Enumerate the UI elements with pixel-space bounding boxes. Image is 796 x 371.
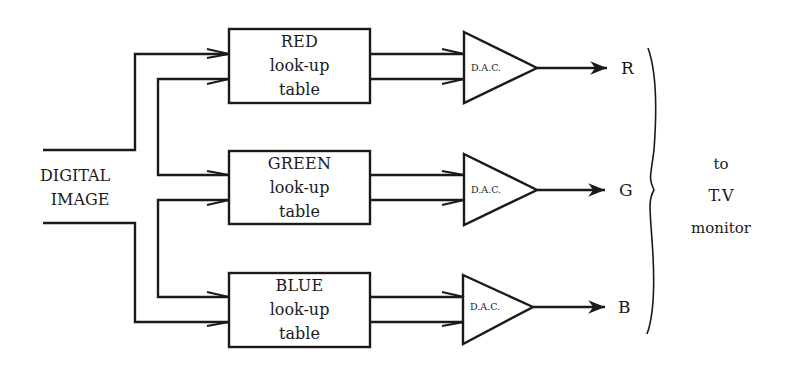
inner-line-lower (158, 200, 229, 297)
red-dac-label: D.A.C. (471, 62, 501, 73)
tv-monitor-label: to T.V monitor (661, 148, 781, 244)
green-dac-label: D.A.C. (471, 184, 501, 195)
brace (647, 48, 656, 334)
input-line-bottom (43, 223, 229, 322)
lut-subtitle: look-up (229, 54, 370, 78)
green-lut-label: GREEN look-up table (229, 152, 370, 224)
lut-title: GREEN (229, 152, 370, 176)
output-r-label: R (621, 58, 634, 78)
output-b-label: B (618, 297, 631, 317)
lut-subtitle2: table (229, 200, 370, 224)
to-text: to (661, 148, 781, 180)
blue-dac-label: D.A.C. (470, 301, 500, 312)
monitor-text: monitor (661, 212, 781, 244)
tv-text: T.V (661, 180, 781, 212)
inner-line-upper (158, 79, 229, 175)
digital-image-label: DIGITAL IMAGE (40, 164, 110, 212)
lut-title: BLUE (229, 274, 370, 298)
lut-subtitle: look-up (229, 176, 370, 200)
lut-subtitle: look-up (229, 298, 370, 322)
image-label: IMAGE (40, 188, 110, 212)
red-lut-label: RED look-up table (229, 30, 370, 102)
lut-subtitle2: table (229, 78, 370, 102)
digital-label: DIGITAL (40, 164, 110, 188)
input-line-top (43, 54, 229, 150)
blue-lut-label: BLUE look-up table (229, 274, 370, 346)
lut-subtitle2: table (229, 322, 370, 346)
lut-title: RED (229, 30, 370, 54)
output-g-label: G (619, 180, 633, 200)
